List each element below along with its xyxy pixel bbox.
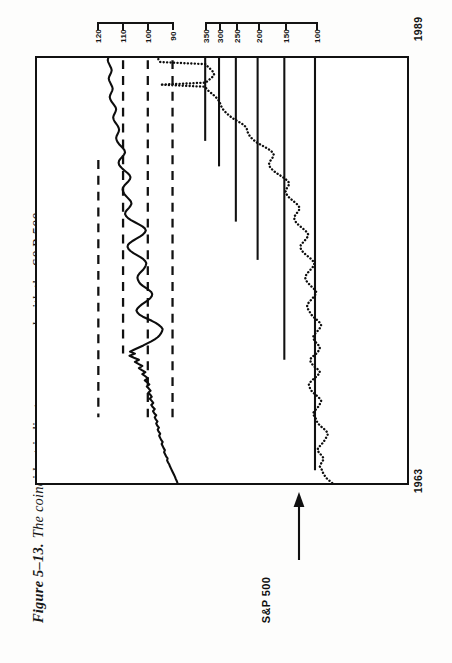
gridlines-sp500: [205, 58, 315, 470]
up-arrow-icon: [292, 492, 306, 560]
scale-tick-label: 120: [94, 22, 103, 50]
scale-tick-label: 100: [313, 22, 322, 50]
chart-canvas: [37, 58, 407, 483]
figure-number: Figure 5–13.: [30, 543, 47, 623]
scale-rail: [97, 22, 173, 24]
chart-plot-frame: [35, 56, 409, 485]
series-line-s-p-500: [158, 58, 332, 483]
sp500-annotation-label: S&P 500: [260, 570, 276, 630]
scale-sp500: 350 300 250 200 150 100: [205, 22, 317, 52]
axis-label-end-year: 1989: [412, 9, 426, 49]
series-line-coincident-indicators: [108, 58, 178, 483]
scale-tick-label: 250: [233, 22, 242, 50]
scale-tick-label: 100: [144, 22, 153, 50]
scale-tick-label: 350: [202, 22, 211, 50]
scale-tick-label: 90: [169, 22, 178, 50]
scale-tick-label: 110: [119, 22, 128, 50]
scale-coincident-index: 120 110 100 90: [97, 22, 173, 52]
figure-page: Figure 5–13. The coincident indicators c…: [0, 0, 452, 663]
scale-tick-label: 200: [255, 22, 264, 50]
chart-plot-area: [37, 58, 407, 483]
scale-tick-label: 300: [216, 22, 225, 50]
axis-label-start-year: 1963: [412, 461, 426, 501]
scale-tick-label: 150: [282, 22, 291, 50]
